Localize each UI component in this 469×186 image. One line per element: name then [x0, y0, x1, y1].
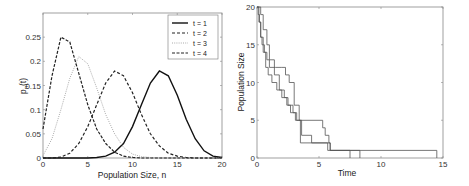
left-x-tick-label: 10 [128, 160, 137, 169]
right-x-tick-label: 15 [439, 160, 448, 169]
left-x-axis-label: Population Size, n [98, 170, 167, 180]
legend: t = 1t = 2t = 3t = 4 [168, 15, 218, 59]
right-axes-box [257, 7, 443, 158]
right-plot: 05101505101520 Time Population Size [236, 3, 448, 178]
left-x-tick-label: 0 [41, 160, 46, 169]
legend-label: t = 4 [193, 50, 207, 57]
right-curves [257, 7, 437, 158]
right-x-tick-label: 10 [377, 160, 386, 169]
right-y-tick-label: 20 [246, 3, 255, 12]
right-y-tick-label: 5 [251, 116, 256, 125]
left-y-tick-label: 0 [37, 154, 42, 163]
figure: 0510152000.050.10.150.20.25 t = 1t = 2t … [0, 0, 469, 186]
left-x-tick-label: 5 [86, 160, 91, 169]
left-plot: 0510152000.050.10.150.20.25 t = 1t = 2t … [18, 13, 227, 180]
left-y-tick-label: 0.05 [25, 130, 41, 139]
curve-t=3 [43, 57, 222, 159]
legend-label: t = 2 [193, 30, 207, 37]
left-y-tick-label: 0.2 [30, 57, 42, 66]
left-x-tick-label: 15 [173, 160, 182, 169]
legend-label: t = 3 [193, 40, 207, 47]
right-x-tick-label: 5 [317, 160, 322, 169]
step-run1 [257, 7, 437, 158]
left-y-axis-label: pn(t) [18, 78, 29, 94]
right-y-tick-label: 15 [246, 41, 255, 50]
step-run2 [257, 7, 350, 158]
left-y-tick-label: 0.25 [25, 33, 41, 42]
curve-t=1 [43, 71, 222, 158]
curve-t=2 [43, 71, 222, 158]
right-y-tick-label: 0 [251, 154, 256, 163]
right-x-tick-label: 0 [255, 160, 260, 169]
legend-label: t = 1 [193, 20, 207, 27]
left-y-tick-label: 0.1 [30, 106, 42, 115]
right-y-tick-label: 10 [246, 79, 255, 88]
left-x-tick-label: 20 [218, 160, 227, 169]
right-y-axis-label: Population Size [236, 52, 246, 111]
right-ticks: 05101505101520 [246, 3, 448, 169]
right-x-axis-label: Time [338, 168, 357, 178]
